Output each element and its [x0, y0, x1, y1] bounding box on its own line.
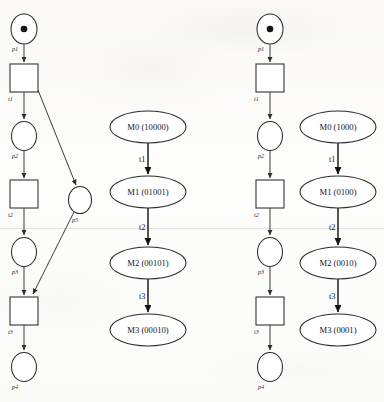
place-label-p2-right: p2	[257, 152, 264, 159]
edge-label-t3-left: t3	[139, 292, 146, 301]
petri-net-diagram: p1 t1 p2 t2 p3 t3	[0, 0, 384, 402]
place-p2-right[interactable]	[258, 122, 283, 151]
transition-t1-right[interactable]	[256, 64, 284, 92]
transition-label-t2-left: t2	[8, 211, 13, 218]
arc-p5-t3-left	[33, 212, 74, 294]
right-reachability-graph: M0 (1000) t1 M1 (0100) t2 M2 (0010) t3 M…	[300, 111, 376, 346]
transition-label-t1-right: t1	[254, 95, 259, 102]
place-p3-right[interactable]	[258, 238, 283, 267]
place-p1-right[interactable]	[257, 14, 283, 44]
figure-root: p1 t1 p2 t2 p3 t3	[0, 0, 384, 402]
left-petri-net: p1 t1 p2 t2 p3 t3	[8, 14, 92, 390]
transition-label-t3-right: t3	[254, 328, 259, 335]
place-p4-right[interactable]	[258, 353, 283, 382]
left-reachability-graph: M0 (10000) t1 M1 (01001) t2 M2 (00101) t…	[110, 111, 186, 346]
place-p4-left[interactable]	[12, 353, 37, 382]
edge-label-t2-left: t2	[139, 223, 146, 232]
place-label-p3-left: p3	[11, 268, 18, 275]
transition-t3-right[interactable]	[256, 297, 284, 325]
marking-label-m1-right: M1 (0100)	[320, 187, 357, 197]
right-petri-net: p1 t1 p2 t2 p3 t3 p4	[254, 14, 284, 390]
place-label-p2-left: p2	[11, 152, 18, 159]
place-label-p4-right: p4	[257, 383, 264, 390]
transition-label-t3-left: t3	[8, 328, 13, 335]
place-label-p1-left: p1	[11, 45, 18, 52]
marking-label-m0-right: M0 (1000)	[320, 122, 357, 132]
transition-label-t1-left: t1	[8, 95, 13, 102]
marking-label-m2-right: M2 (0010)	[320, 258, 357, 268]
transition-t2-right[interactable]	[256, 180, 284, 208]
place-p5-left[interactable]	[69, 187, 92, 214]
token-dot	[267, 26, 274, 33]
marking-label-m3-left: M3 (00010)	[127, 325, 168, 335]
place-label-p4-left: p4	[11, 383, 18, 390]
marking-label-m0-left: M0 (10000)	[127, 122, 168, 132]
edge-label-t2-right: t2	[329, 223, 336, 232]
marking-label-m3-right: M3 (0001)	[320, 325, 357, 335]
token-dot	[21, 26, 28, 33]
edge-label-t1-right: t1	[329, 155, 336, 164]
place-label-p1-right: p1	[257, 45, 264, 52]
edge-label-t1-left: t1	[139, 155, 146, 164]
place-p1-left[interactable]	[11, 14, 37, 44]
transition-t3-left[interactable]	[10, 297, 38, 325]
arc-t1-p5-left	[38, 90, 76, 185]
place-p3-left[interactable]	[12, 238, 37, 267]
transition-label-t2-right: t2	[254, 211, 259, 218]
transition-t1-left[interactable]	[10, 64, 38, 92]
place-label-p5-left: p5	[71, 216, 78, 223]
edge-label-t3-right: t3	[329, 292, 336, 301]
transition-t2-left[interactable]	[10, 180, 38, 208]
place-p2-left[interactable]	[12, 122, 37, 151]
marking-label-m1-left: M1 (01001)	[127, 187, 168, 197]
marking-label-m2-left: M2 (00101)	[127, 258, 168, 268]
place-label-p3-right: p3	[257, 268, 264, 275]
